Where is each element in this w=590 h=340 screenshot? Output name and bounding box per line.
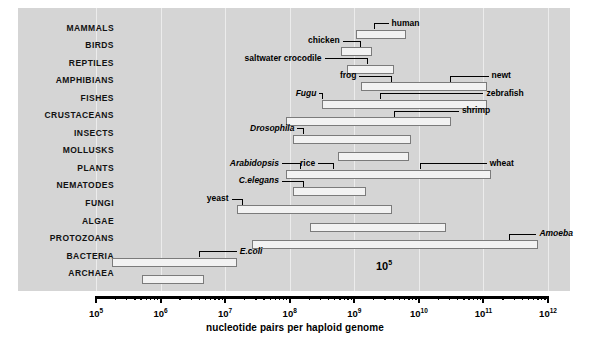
axis-tick-minor (384, 296, 385, 300)
leader-line (232, 199, 244, 205)
category-label-plants: PLANTS (0, 164, 114, 173)
exponent: 5 (99, 307, 103, 314)
axis-tick-minor (218, 296, 219, 300)
axis-tick-minor (154, 296, 155, 300)
axis-tick-label-10e12: 1012 (539, 307, 557, 319)
exponent: 11 (485, 307, 492, 314)
category-label-fishes: FISHES (0, 94, 114, 103)
leader-line (509, 234, 536, 240)
leader-line (319, 93, 323, 99)
species-label-fugu: Fugu (296, 89, 317, 98)
axis-tick-minor (393, 296, 394, 300)
axis-tick-minor (199, 296, 200, 300)
leader-line (450, 76, 489, 82)
axis-tick-label-10e11: 1011 (475, 307, 492, 319)
axis-tick-minor (449, 296, 450, 300)
category-label-birds: BIRDS (0, 41, 114, 50)
axis-tick-minor (255, 296, 256, 300)
range-bar (286, 170, 491, 179)
axis-tick-minor (533, 296, 534, 300)
axis-tick-minor (270, 296, 271, 300)
axis-tick-minor (473, 296, 474, 300)
genome-size-figure: MAMMALSBIRDSREPTILESAMPHIBIANSFISHESCRUS… (0, 0, 590, 340)
leader-line (325, 58, 369, 64)
axis-tick-minor (320, 296, 321, 300)
range-bar (112, 258, 237, 267)
species-label-saltwater-crocodile: saltwater crocodile (245, 54, 322, 63)
axis-tick-minor (408, 296, 409, 300)
category-label-reptiles: REPTILES (0, 59, 114, 68)
axis-tick-label-10e6: 106 (153, 307, 167, 319)
axis-tick-minor (468, 296, 469, 300)
leader-line (380, 93, 483, 99)
axis-tick-minor (179, 296, 180, 300)
axis-tick-minor (275, 296, 276, 300)
range-bar (356, 30, 406, 39)
axis-tick-minor (150, 296, 151, 300)
range-bar (293, 187, 366, 196)
exponent: 7 (229, 307, 233, 314)
axis-tick-label-10e7: 107 (218, 307, 232, 319)
species-label-yeast: yeast (207, 194, 229, 203)
range-bar (338, 152, 409, 161)
axis-tick-label-10e5: 105 (89, 307, 103, 319)
axis-tick-minor (412, 296, 413, 300)
gridline (548, 8, 549, 291)
axis-tick-minor (214, 296, 215, 300)
axis-tick-label-10e10: 1010 (410, 307, 428, 319)
axis-tick-minor (339, 296, 340, 300)
species-label-e-coli: E.coli (240, 247, 263, 256)
species-label-rice: rice (300, 159, 315, 168)
axis-tick-minor (537, 296, 538, 300)
axis-tick-minor (134, 296, 135, 300)
category-label-algae: ALGAE (0, 217, 114, 226)
axis-tick-major (289, 296, 291, 303)
axis-tick-label-10e9: 109 (347, 307, 361, 319)
species-label-zebrafish: zebrafish (486, 89, 523, 98)
axis-tick-minor (140, 296, 141, 300)
axis-tick-minor (404, 296, 405, 300)
leader-line (420, 163, 487, 169)
species-label-drosophila: Drosophila (250, 124, 294, 133)
axis-tick-minor (344, 296, 345, 300)
category-label-mammals: MAMMALS (0, 24, 114, 33)
category-label-nematodes: NEMATODES (0, 181, 114, 190)
axis-tick-minor (415, 296, 416, 300)
range-bar (293, 135, 411, 144)
axis-tick-minor (205, 296, 206, 300)
stray-exponent-annotation: 105 (376, 259, 392, 272)
leader-line (199, 251, 236, 257)
species-label-arabidopsis: Arabidopsis (230, 159, 279, 168)
range-bar (286, 117, 451, 126)
leader-line (374, 23, 389, 29)
species-label-wheat: wheat (490, 159, 514, 168)
axis-tick-major (547, 296, 549, 303)
species-label-frog: frog (340, 71, 357, 80)
leader-line (282, 163, 301, 169)
species-label-chicken: chicken (308, 36, 340, 45)
category-label-crustaceans: CRUSTACEANS (0, 111, 114, 120)
axis-tick-minor (477, 296, 478, 300)
axis-tick-minor (399, 296, 400, 300)
exponent: 12 (550, 307, 557, 314)
exponent: 10 (421, 307, 428, 314)
species-label-c-elegans: C.elegans (239, 176, 279, 185)
axis-tick-minor (544, 296, 545, 300)
gridline (161, 8, 162, 291)
leader-line (297, 128, 303, 134)
axis-tick-minor (283, 296, 284, 300)
axis-tick-minor (191, 296, 192, 300)
range-bar (310, 223, 446, 232)
category-label-protozoans: PROTOZOANS (0, 234, 114, 243)
range-bar (252, 240, 537, 249)
axis-tick-minor (157, 296, 158, 300)
axis-tick-major (160, 296, 162, 303)
axis-tick-minor (463, 296, 464, 300)
axis-tick-minor (514, 296, 515, 300)
leader-line (282, 181, 304, 187)
axis-tick-minor (146, 296, 147, 300)
axis-tick-minor (244, 296, 245, 300)
axis-tick-minor (438, 296, 439, 300)
category-label-insects: INSECTS (0, 129, 114, 138)
exponent: 6 (164, 307, 168, 314)
